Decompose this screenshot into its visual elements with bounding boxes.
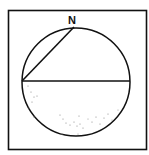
circle-outline (22, 28, 130, 136)
frame (9, 11, 147, 150)
compass-diagram: N (0, 0, 149, 155)
north-label: N (68, 14, 76, 26)
